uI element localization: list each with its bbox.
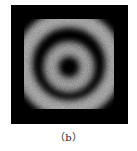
figure-caption: （b） xyxy=(0,129,137,144)
ring-pattern-graphic xyxy=(11,5,128,124)
ring-pattern-image xyxy=(11,5,128,124)
